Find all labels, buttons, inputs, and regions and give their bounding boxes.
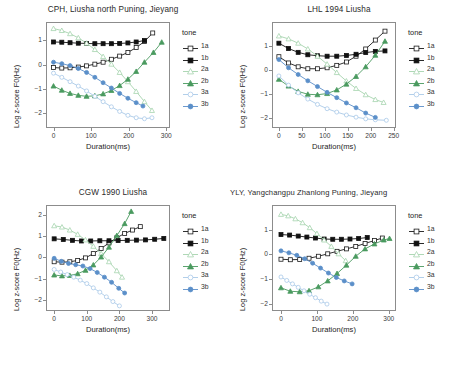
legend-item-3a[interactable]: 3a — [182, 86, 209, 98]
legend-label-2a: 2a — [427, 65, 435, 72]
legend-item-3b[interactable]: 3b — [408, 281, 435, 293]
legend-item-1b[interactable]: 1b — [182, 52, 209, 64]
x-tick-label: 300 — [152, 132, 180, 139]
legend-label-1b: 1b — [201, 54, 209, 61]
legend-item-3a[interactable]: 3a — [182, 269, 209, 281]
panel-cgw: CGW 1990 Liusha 0100200300210−1−2Duratio… — [0, 183, 226, 366]
y-tick-mark — [43, 236, 46, 237]
x-tick-mark — [119, 311, 120, 314]
x-tick-mark — [371, 128, 372, 131]
legend-item-1a[interactable]: 1a — [182, 223, 209, 235]
y-tick-label: −1 — [250, 90, 268, 97]
legend-label-3b: 3b — [201, 283, 209, 290]
legend-marker-2a-icon — [182, 63, 199, 74]
legend-label-2a: 2a — [201, 65, 209, 72]
x-tick-mark — [353, 311, 354, 314]
legend-item-3b[interactable]: 3b — [182, 281, 209, 293]
x-axis-label: Duration(ms) — [272, 325, 396, 334]
legend-item-2b[interactable]: 2b — [182, 75, 209, 87]
legend-item-2b[interactable]: 2b — [408, 258, 435, 270]
legend-label-2b: 2b — [427, 260, 435, 267]
legend-marker-2a-icon — [408, 63, 425, 74]
legend-item-3b[interactable]: 3b — [182, 98, 209, 110]
legend-marker-3a-icon — [408, 86, 425, 97]
legend-item-1b[interactable]: 1b — [408, 235, 435, 247]
legend-item-2a[interactable]: 2a — [182, 246, 209, 258]
legend-marker-2a-icon — [408, 246, 425, 257]
y-tick-mark — [43, 89, 46, 90]
series-2b — [52, 209, 134, 278]
x-tick-mark — [91, 128, 92, 131]
y-tick-label: 1 — [24, 232, 42, 239]
y-tick-label: 1 — [24, 36, 42, 43]
series-3a — [52, 267, 121, 307]
y-tick-label: 0 — [24, 253, 42, 260]
legend-item-2a[interactable]: 2a — [408, 63, 435, 75]
series-3a — [279, 275, 329, 306]
series-2b — [278, 236, 392, 294]
legend-marker-2b-icon — [408, 75, 425, 86]
legend-label-2b: 2b — [201, 77, 209, 84]
legend-title: tone — [182, 211, 209, 220]
series-1a — [52, 225, 142, 265]
y-tick-label: 1 — [250, 42, 268, 49]
legend: tone1a1b2a2b3a3b — [182, 28, 209, 109]
legend-title: tone — [408, 211, 435, 220]
legend-label-1a: 1a — [427, 42, 435, 49]
legend-label-3b: 3b — [427, 100, 435, 107]
y-tick-mark — [269, 94, 272, 95]
y-tick-mark — [43, 300, 46, 301]
legend-label-2a: 2a — [201, 248, 209, 255]
series-1b — [52, 236, 166, 243]
legend-marker-2b-icon — [182, 258, 199, 269]
x-tick-label: 200 — [115, 132, 143, 139]
x-axis-label: Duration(ms) — [46, 325, 170, 334]
legend-item-2b[interactable]: 2b — [408, 75, 435, 87]
legend-item-1b[interactable]: 1b — [182, 235, 209, 247]
x-tick-label: 250 — [380, 132, 408, 139]
x-tick-label: 0 — [267, 315, 295, 322]
legend-item-1a[interactable]: 1a — [182, 40, 209, 52]
y-tick-label: 0 — [250, 66, 268, 73]
y-tick-mark — [43, 65, 46, 66]
legend-item-2b[interactable]: 2b — [182, 258, 209, 270]
legend-item-1a[interactable]: 1a — [408, 223, 435, 235]
y-tick-label: −2 — [24, 296, 42, 303]
x-tick-mark — [54, 128, 55, 131]
y-tick-label: 2 — [24, 211, 42, 218]
panel-lhl: LHL 1994 Liusha 05010015020025010−1−2Dur… — [226, 0, 452, 183]
y-tick-mark — [43, 113, 46, 114]
legend-item-2a[interactable]: 2a — [182, 63, 209, 75]
x-tick-mark — [302, 128, 303, 131]
y-tick-label: −1 — [24, 275, 42, 282]
y-tick-mark — [269, 46, 272, 47]
legend-marker-3b-icon — [182, 98, 199, 109]
legend-marker-1a-icon — [408, 40, 425, 51]
x-tick-mark — [348, 128, 349, 131]
x-tick-label: 100 — [303, 315, 331, 322]
legend-item-2a[interactable]: 2a — [408, 246, 435, 258]
y-axis-label: Log z-score F0(Hz) — [238, 65, 247, 128]
legend: tone1a1b2a2b3a3b — [408, 211, 435, 292]
x-tick-mark — [279, 128, 280, 131]
y-axis-label: Log z-score F0(Hz) — [238, 248, 247, 311]
x-tick-mark — [87, 311, 88, 314]
series-2b — [276, 39, 387, 97]
x-tick-mark — [152, 311, 153, 314]
legend-item-3a[interactable]: 3a — [408, 86, 435, 98]
y-tick-mark — [269, 279, 272, 280]
legend-label-3b: 3b — [201, 100, 209, 107]
x-tick-label: 0 — [40, 315, 68, 322]
legend-item-1b[interactable]: 1b — [408, 52, 435, 64]
y-tick-label: 1 — [250, 226, 268, 233]
x-axis-label: Duration(ms) — [272, 142, 396, 151]
legend-label-1b: 1b — [427, 237, 435, 244]
x-tick-mark — [281, 311, 282, 314]
legend-marker-1b-icon — [408, 235, 425, 246]
legend-label-3a: 3a — [201, 271, 209, 278]
legend-item-3b[interactable]: 3b — [408, 98, 435, 110]
legend-item-3a[interactable]: 3a — [408, 269, 435, 281]
x-tick-mark — [129, 128, 130, 131]
series-1b — [52, 39, 147, 46]
legend-item-1a[interactable]: 1a — [408, 40, 435, 52]
